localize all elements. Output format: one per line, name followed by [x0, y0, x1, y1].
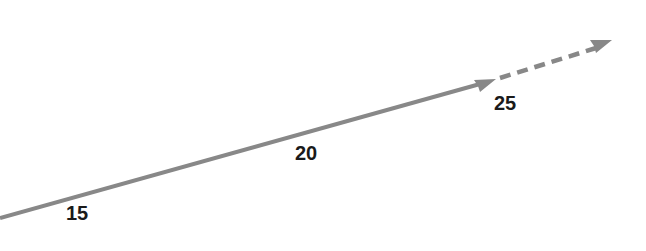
- solid-trend-line: [0, 79, 496, 218]
- label-15: 15: [66, 202, 88, 225]
- dashed-projection-line: [500, 40, 612, 78]
- label-20: 20: [295, 142, 317, 165]
- label-25: 25: [494, 92, 516, 115]
- trend-diagram: [0, 0, 646, 251]
